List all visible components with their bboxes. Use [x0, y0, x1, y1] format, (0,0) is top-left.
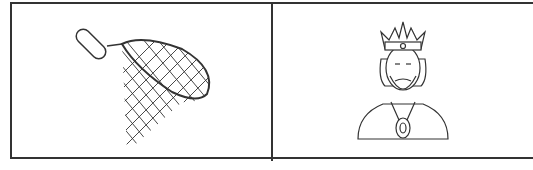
- panel-king: [273, 4, 533, 157]
- panel-fishing-net: [12, 4, 271, 157]
- fishing-net-icon: [12, 4, 271, 157]
- king-icon: [273, 4, 533, 157]
